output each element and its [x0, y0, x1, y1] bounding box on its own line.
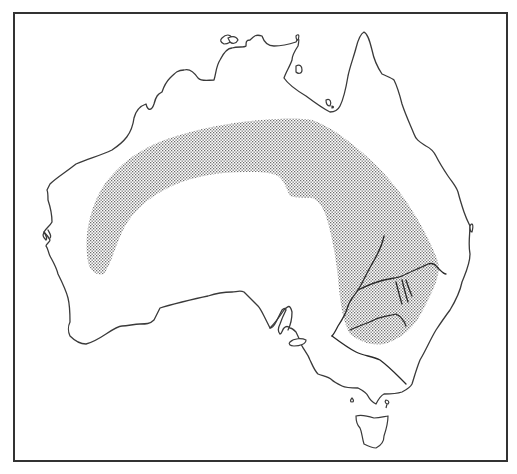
distribution-range: [87, 119, 439, 345]
flinders-island: [385, 400, 389, 408]
small-island: [332, 106, 334, 108]
kangaroo-island: [289, 339, 306, 346]
bathurst-island: [228, 37, 238, 44]
australia-map: [0, 0, 517, 474]
groote-eylandt: [296, 65, 302, 73]
tasmania: [356, 415, 388, 448]
wellesley-island: [326, 99, 331, 106]
king-island: [351, 398, 354, 402]
fraser-island: [470, 224, 473, 232]
arnhem-island: [296, 35, 299, 40]
